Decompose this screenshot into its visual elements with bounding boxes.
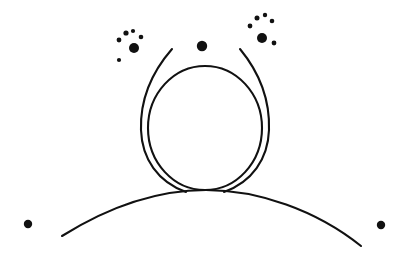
top-center-dot [197,41,207,51]
spark-dot [257,33,267,43]
spark-dot [131,29,135,33]
figure-svg [0,0,410,255]
spark-dot [117,38,122,43]
ground-arc [62,190,361,246]
spark-dot [263,13,267,17]
spark-dot [123,30,128,35]
right-spark-cluster [248,13,277,46]
drawing-canvas [0,0,410,255]
spark-dot [270,19,275,24]
spark-dot [129,43,139,53]
spark-dot [139,35,144,40]
spark-dot [272,41,277,46]
bottom-right-dot [377,221,385,229]
spark-dot [255,16,260,21]
spark-dot [248,24,253,29]
left-spark-cluster [117,29,144,62]
spark-dot [117,58,121,62]
bottom-left-dot [24,220,32,228]
center-circle [148,66,262,190]
